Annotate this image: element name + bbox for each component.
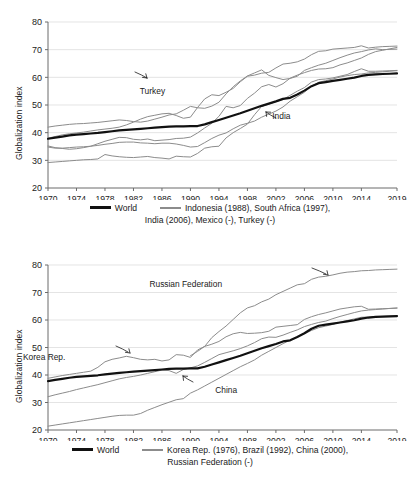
legend-swatch-world-top (90, 206, 111, 209)
svg-text:1986: 1986 (152, 436, 171, 442)
svg-text:1970: 1970 (38, 436, 57, 442)
svg-text:Russian Federation: Russian Federation (149, 279, 222, 289)
svg-text:Turkey: Turkey (140, 86, 166, 96)
svg-text:India: India (272, 111, 291, 121)
svg-text:China: China (215, 385, 237, 395)
globalization-index-figure: Globalization index 20304050607080197019… (0, 0, 420, 483)
svg-text:1998: 1998 (238, 436, 257, 442)
svg-text:2006: 2006 (295, 436, 314, 442)
legend-swatch-world-bottom (72, 448, 93, 451)
legend-swatch-group-top (160, 207, 181, 209)
svg-text:1978: 1978 (95, 436, 114, 442)
legend-label-group-bottom-line2: Russian Federation (-) (0, 457, 420, 469)
svg-text:60: 60 (32, 73, 42, 83)
svg-text:2002: 2002 (266, 436, 285, 442)
legend-label-world-top: World (115, 203, 137, 215)
legend-label-group-bottom-line1: Korea Rep. (1976), Brazil (1992), China … (167, 445, 348, 457)
svg-text:2014: 2014 (352, 194, 371, 201)
svg-text:80: 80 (32, 17, 42, 27)
svg-text:70: 70 (32, 45, 42, 55)
chart-panel-top: Globalization index 20304050607080197019… (0, 0, 420, 241)
svg-text:70: 70 (32, 288, 42, 298)
line-chart-bottom: 2030405060708019701974197819821986199019… (0, 241, 420, 441)
svg-text:2002: 2002 (266, 194, 285, 201)
svg-text:80: 80 (32, 260, 42, 270)
svg-text:1990: 1990 (181, 194, 200, 201)
legend-label-group-top-line2: India (2006), Mexico (-), Turkey (-) (0, 215, 420, 227)
svg-text:1982: 1982 (124, 436, 143, 442)
svg-text:2010: 2010 (323, 436, 342, 442)
chart-panel-bottom: Globalization index 20304050607080197019… (0, 241, 420, 483)
svg-text:1994: 1994 (209, 436, 228, 442)
svg-text:2019: 2019 (387, 194, 406, 201)
svg-text:20: 20 (32, 183, 42, 193)
svg-text:1974: 1974 (67, 436, 86, 442)
svg-text:30: 30 (32, 156, 42, 166)
svg-text:40: 40 (32, 370, 42, 380)
svg-text:1990: 1990 (181, 436, 200, 442)
legend-entry-world-bottom: World (72, 445, 119, 457)
svg-text:40: 40 (32, 128, 42, 138)
svg-text:50: 50 (32, 100, 42, 110)
legend-entry-group-bottom: Korea Rep. (1976), Brazil (1992), China … (142, 445, 348, 457)
svg-text:2014: 2014 (352, 436, 371, 442)
svg-text:30: 30 (32, 398, 42, 408)
svg-text:1994: 1994 (209, 194, 228, 201)
svg-text:20: 20 (32, 425, 42, 435)
svg-text:2006: 2006 (295, 194, 314, 201)
legend-bottom: World Korea Rep. (1976), Brazil (1992), … (0, 445, 420, 468)
legend-label-world-bottom: World (97, 445, 119, 457)
legend-top: World Indonesia (1988), South Africa (19… (0, 203, 420, 226)
legend-entry-world-top: World (90, 203, 137, 215)
svg-text:60: 60 (32, 315, 42, 325)
svg-text:2010: 2010 (323, 194, 342, 201)
legend-swatch-group-bottom (142, 449, 163, 451)
svg-text:2019: 2019 (387, 436, 406, 442)
legend-label-group-top-line1: Indonesia (1988), South Africa (1997), (185, 203, 330, 215)
legend-entry-group-top: Indonesia (1988), South Africa (1997), (160, 203, 330, 215)
svg-text:1978: 1978 (95, 194, 114, 201)
svg-text:1998: 1998 (238, 194, 257, 201)
svg-text:1982: 1982 (124, 194, 143, 201)
svg-text:Korea Rep.: Korea Rep. (23, 352, 65, 362)
svg-text:1986: 1986 (152, 194, 171, 201)
svg-text:1970: 1970 (38, 194, 57, 201)
svg-text:1974: 1974 (67, 194, 86, 201)
line-chart-top: 2030405060708019701974197819821986199019… (0, 0, 420, 200)
